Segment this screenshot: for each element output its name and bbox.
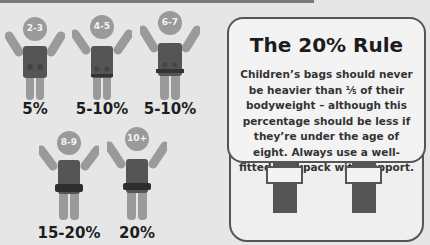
child-figure-6-7: 6-7 (140, 8, 200, 108)
child-figure-2-3: 2-3 (5, 14, 65, 114)
age-label: 2-3 (5, 23, 65, 33)
right-buckle-icon (345, 166, 382, 184)
age-label: 8-9 (39, 137, 99, 147)
child-figure-8-9: 8-9 (39, 128, 99, 228)
child-figure-10-plus: 10+ (107, 124, 167, 224)
percent-label: 20% (97, 224, 177, 242)
age-label: 4-5 (72, 21, 132, 31)
age-label: 6-7 (140, 17, 200, 27)
rule-info-card: The 20% Rule Children’s bags should neve… (227, 17, 426, 163)
card-body-text: Children’s bags should never be heavier … (237, 67, 416, 176)
card-title: The 20% Rule (229, 33, 424, 57)
age-label: 10+ (107, 133, 167, 143)
top-divider-line (0, 0, 314, 3)
percent-label: 5-10% (130, 100, 210, 118)
child-figure-4-5: 4-5 (72, 12, 132, 112)
left-buckle-icon (266, 166, 303, 184)
